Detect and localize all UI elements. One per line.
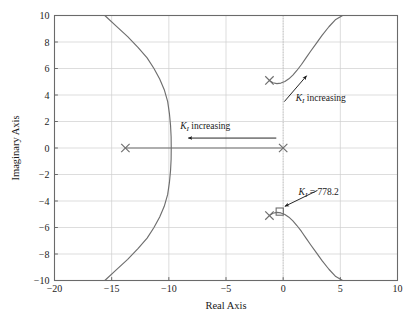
y-tick-label: −6 [39,222,50,233]
y-tick-label: −2 [39,169,50,180]
y-tick-label: 6 [45,63,50,74]
annotation-body-text: increasing [189,121,231,131]
x-tick-label: −15 [104,283,120,294]
x-tick-label: 10 [393,283,403,294]
annotation-body-text: increasing [304,93,346,103]
y-tick-label: 8 [45,37,50,48]
root-locus-figure: KI increasingKI increasingKI = 778.2 −20… [0,0,420,325]
x-tick-label: −5 [221,283,232,294]
x-tick-label: −10 [161,283,177,294]
root-locus-chart: KI increasingKI increasingKI = 778.2 −20… [0,0,420,325]
y-tick-label: −8 [39,249,50,260]
annotation-body-text: = 778.2 [307,187,339,197]
x-tick-label: 5 [338,283,343,294]
y-axis-title: Imaginary Axis [10,115,21,180]
y-tick-label: −4 [39,196,50,207]
y-tick-label: 0 [45,143,50,154]
y-tick-label: 2 [45,116,50,127]
x-axis-title: Real Axis [205,300,246,311]
y-tick-label: −10 [34,275,50,286]
y-tick-label: 4 [45,90,50,101]
y-tick-label: 10 [40,10,50,21]
x-tick-label: 0 [281,283,286,294]
